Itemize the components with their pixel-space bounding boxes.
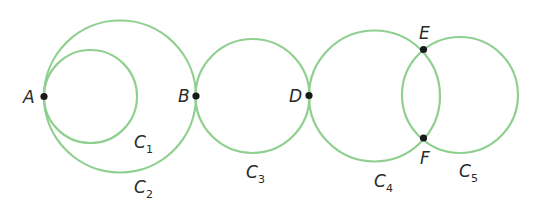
circle-subscript-c3: 3 <box>258 173 265 186</box>
circle-subscript-c5: 5 <box>471 172 478 185</box>
circles-layer <box>44 21 518 173</box>
circle-c2 <box>44 21 196 173</box>
diagram-svg: C1C2C3C4C5ABDEF <box>0 0 538 214</box>
point-label-d: D <box>289 86 302 106</box>
point-label-a: A <box>22 87 35 107</box>
point-b <box>192 92 199 99</box>
circle-label-c5: C <box>459 161 471 181</box>
point-e <box>420 46 427 53</box>
circle-subscript-c4: 4 <box>386 182 393 195</box>
circles-diagram: C1C2C3C4C5ABDEF <box>0 0 538 214</box>
points-layer <box>40 46 427 142</box>
circle-label-c3: C <box>246 162 258 182</box>
circle-subscript-c1: 1 <box>146 143 153 156</box>
circle-label-c4: C <box>374 171 386 191</box>
point-d <box>305 92 312 99</box>
point-label-f: F <box>420 148 430 168</box>
circle-c1 <box>44 50 137 143</box>
point-label-e: E <box>419 23 430 43</box>
point-a <box>40 93 47 100</box>
circle-label-c1: C <box>134 132 146 152</box>
circle-c5 <box>402 37 518 153</box>
circle-label-c2: C <box>134 177 146 197</box>
circle-subscript-c2: 2 <box>146 188 153 201</box>
point-f <box>420 134 427 141</box>
point-label-b: B <box>178 86 190 106</box>
